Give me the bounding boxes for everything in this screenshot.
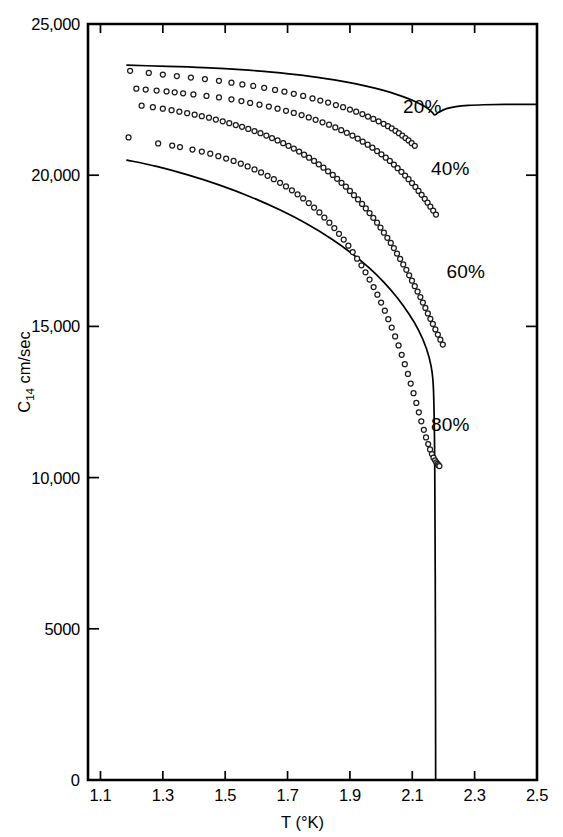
- data-point: [360, 139, 365, 144]
- data-point: [297, 149, 302, 154]
- data-point: [306, 115, 311, 120]
- data-point: [366, 114, 371, 119]
- series-label-40pct: 40%: [431, 158, 470, 179]
- data-point: [262, 85, 267, 90]
- data-point: [284, 108, 289, 113]
- data-point: [160, 72, 165, 77]
- data-point: [360, 201, 365, 206]
- data-point: [206, 115, 211, 120]
- data-point: [245, 164, 250, 169]
- data-point: [252, 129, 257, 134]
- figure-container: 1.11.31.51.71.92.12.32.50500010,00015,00…: [0, 0, 563, 837]
- data-point: [379, 300, 384, 305]
- y-axis-tick-label: 10,000: [31, 469, 80, 487]
- data-point: [381, 230, 386, 235]
- data-point: [275, 106, 280, 111]
- data-point: [313, 117, 318, 122]
- data-point: [391, 246, 396, 251]
- y-axis-tick-label: 15,000: [31, 317, 80, 335]
- data-point: [289, 188, 294, 193]
- data-point: [220, 119, 225, 124]
- y-axis-tick-label: 25,000: [31, 15, 80, 33]
- data-point: [341, 105, 346, 110]
- data-point: [146, 70, 151, 75]
- data-point: [412, 284, 417, 289]
- data-point: [378, 225, 383, 230]
- data-series-80pct: [126, 135, 442, 469]
- data-point: [248, 100, 253, 105]
- data-point: [190, 147, 195, 152]
- data-point: [414, 400, 419, 405]
- data-point: [310, 96, 315, 101]
- data-point: [216, 154, 221, 159]
- data-point: [273, 87, 278, 92]
- x-axis-tick-label: 2.5: [526, 786, 548, 804]
- data-point: [376, 119, 381, 124]
- data-point: [191, 92, 196, 97]
- data-point: [343, 184, 348, 189]
- y-axis-title: C14 cm/sec: [15, 331, 36, 413]
- data-point: [233, 123, 238, 128]
- data-point: [264, 133, 269, 138]
- data-point: [181, 91, 186, 96]
- data-point: [169, 108, 174, 113]
- y-axis-tick-label: 5000: [44, 620, 80, 638]
- data-point: [402, 362, 407, 367]
- data-point: [347, 188, 352, 193]
- data-point: [360, 112, 365, 117]
- data-point: [437, 464, 442, 469]
- series-label-20pct: 20%: [403, 96, 442, 117]
- data-point: [188, 75, 193, 80]
- data-point: [320, 120, 325, 125]
- data-point: [367, 277, 372, 282]
- data-point: [350, 133, 355, 138]
- x-axis-tick-label: 1.9: [339, 786, 361, 804]
- data-point: [251, 83, 256, 88]
- data-point: [396, 343, 401, 348]
- data-point: [185, 111, 190, 116]
- x-axis-tick-label: 1.3: [152, 786, 174, 804]
- data-point: [365, 142, 370, 147]
- series-label-60pct: 60%: [447, 261, 486, 282]
- data-point: [418, 295, 423, 300]
- upper-theory-curve: [127, 65, 537, 115]
- data-point: [177, 145, 182, 150]
- data-point: [425, 311, 430, 316]
- lower-theory-curve: [127, 160, 436, 780]
- data-point: [371, 116, 376, 121]
- data-point: [216, 78, 221, 83]
- data-point: [156, 141, 161, 146]
- data-point: [332, 226, 337, 231]
- data-point: [367, 211, 372, 216]
- data-point: [395, 251, 400, 256]
- x-axis-tick-label: 2.3: [464, 786, 486, 804]
- data-point: [238, 161, 243, 166]
- data-point: [278, 180, 283, 185]
- data-point: [174, 74, 179, 79]
- y-axis-title-group: C14 cm/sec: [15, 331, 36, 413]
- data-point: [208, 151, 213, 156]
- data-point: [426, 442, 431, 447]
- data-point: [306, 201, 311, 206]
- data-point: [419, 419, 424, 424]
- data-point: [327, 122, 332, 127]
- data-point: [271, 177, 276, 182]
- data-point: [339, 128, 344, 133]
- data-point: [326, 169, 331, 174]
- data-point: [433, 327, 438, 332]
- data-point: [204, 93, 209, 98]
- data-point: [282, 89, 287, 94]
- data-point: [363, 206, 368, 211]
- data-point: [388, 240, 393, 245]
- y-axis-origin-label: 0: [71, 771, 80, 789]
- data-point: [428, 316, 433, 321]
- data-point: [286, 143, 291, 148]
- data-point: [382, 308, 387, 313]
- data-point: [339, 180, 344, 185]
- data-point: [239, 99, 244, 104]
- data-point: [386, 317, 391, 322]
- data-markers-group: [126, 68, 445, 468]
- data-point: [143, 87, 148, 92]
- data-point: [409, 278, 414, 283]
- x-axis-tick-label: 2.1: [401, 786, 423, 804]
